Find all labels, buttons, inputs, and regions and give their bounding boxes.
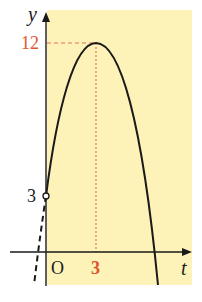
y-max-label: 12 [21, 34, 39, 52]
open-circle-marker [43, 193, 49, 199]
domain-shading [47, 10, 192, 285]
y-intercept-label: 3 [27, 187, 36, 205]
origin-label: O [51, 259, 64, 277]
dashed-extension-curve [34, 196, 46, 285]
t-max-label: 3 [91, 259, 100, 277]
t-axis-label: t [181, 258, 187, 278]
y-axis-label: y [28, 4, 37, 24]
